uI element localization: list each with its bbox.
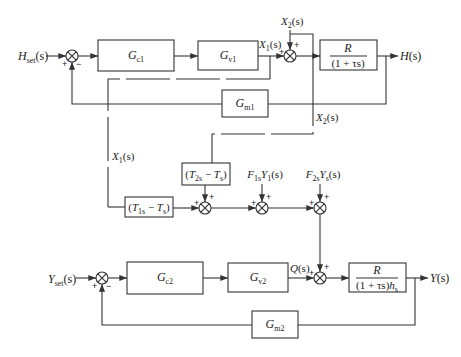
block-t1s-minus-ts: (T1s − Ts) [125, 197, 173, 217]
label-x1-mid: X1(s) [111, 150, 135, 165]
sign-plus: + [209, 192, 214, 202]
sign-plus: + [324, 192, 329, 202]
summing-junction-5: + + [309, 192, 329, 214]
label-y-set: Yset(s) [48, 272, 76, 288]
label-y-out: Y(s) [430, 271, 449, 285]
summing-junction-6: + + [309, 262, 329, 284]
sign-plus: + [294, 40, 299, 50]
summing-junction-4: + + [251, 192, 271, 214]
bottom-loop: Yset(s) + − Gc2 Gv2 Q(s) [48, 262, 449, 338]
block-process2: R (1 + τs)hs [349, 263, 406, 294]
sign-plus: + [309, 268, 314, 278]
label-h-set: Hset(s) [17, 49, 48, 65]
block-gc1: Gc1 [98, 40, 174, 71]
top-loop: Hset(s) + − Gc1 Gv1 X1(s) [17, 15, 421, 117]
sign-plus: + [251, 198, 256, 208]
block-diagram: Hset(s) + − Gc1 Gv1 X1(s) [0, 0, 461, 357]
block-gc2: Gc2 [127, 262, 203, 294]
label-h-out: H(s) [399, 49, 421, 63]
cross-coupling: X1(s) X2(s) (T1s − Ts) (T2s − Ts) + + [108, 56, 341, 272]
summing-junction-2: + + [279, 40, 299, 62]
block-t2s-minus-ts: (T2s − Ts) [182, 163, 230, 185]
sign-plus: + [266, 192, 271, 202]
label-f2s-ys: F2sYs(s) [305, 168, 341, 183]
label-x2-mid: X2(s) [315, 111, 339, 126]
sign-plus: + [324, 262, 329, 272]
label-f1s-y1: F1sY1(s) [246, 168, 283, 183]
block-gv1: Gv1 [198, 41, 258, 70]
sign-minus: − [106, 281, 111, 291]
svg-text:R: R [343, 41, 352, 55]
svg-text:R: R [372, 263, 381, 277]
block-process1: R (1 + τs) [320, 40, 377, 70]
svg-text:(1 + τs): (1 + τs) [331, 57, 365, 70]
block-gm2: Gm2 [252, 311, 298, 338]
block-gm1: Gm1 [222, 90, 268, 117]
label-q: Q(s) [290, 262, 310, 275]
sign-minus: − [76, 59, 81, 69]
sign-plus: + [92, 281, 97, 291]
block-gv2: Gv2 [228, 263, 288, 292]
sign-plus: + [279, 47, 284, 57]
label-x2-top: X2(s) [280, 15, 304, 30]
sign-plus: + [194, 198, 199, 208]
sign-plus: + [62, 59, 67, 69]
sign-plus: + [309, 198, 314, 208]
summing-junction-3: + + [194, 192, 214, 214]
